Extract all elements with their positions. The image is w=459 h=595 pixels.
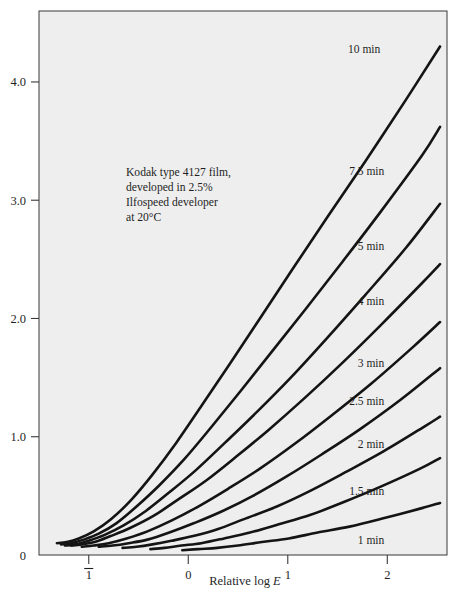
y-axis: 01.02.03.04.0 (10, 75, 39, 562)
curve-label-5-min: 5 min (358, 240, 385, 252)
annotation-line-1: Kodak type 4127 film, (126, 166, 231, 179)
curve-label-4-min: 4 min (358, 295, 385, 307)
curve-label-1-5-min: 1.5 min (349, 485, 384, 497)
x-tick-label: 1 (86, 568, 92, 582)
x-tick-label: 0 (185, 568, 191, 582)
curve-label-1-min: 1 min (358, 534, 385, 546)
x-tick-label: 1 (285, 568, 291, 582)
y-tick-label: 2.0 (10, 312, 26, 326)
plot-background (39, 11, 447, 555)
y-tick-label: 4.0 (10, 75, 26, 89)
x-axis-title-symbol: E (272, 574, 281, 588)
curve-label-7-5-min: 7.5 min (349, 165, 384, 177)
annotation-line-2: developed in 2.5% (126, 181, 213, 194)
curve-label-2-5-min: 2.5 min (349, 395, 384, 407)
y-tick-label: 0 (20, 549, 26, 563)
y-tick-label: 3.0 (10, 194, 26, 208)
x-axis-title: Relative log E (209, 574, 281, 588)
annotation-line-4: at 20°C (126, 211, 161, 224)
curve-label-3-min: 3 min (358, 357, 385, 369)
curve-label-10-min: 10 min (348, 43, 381, 55)
y-tick-label: 1.0 (10, 430, 26, 444)
annotation-line-3: Ilfospeed developer (126, 196, 218, 209)
chart-svg: 01.02.03.04.0 1012 10 min7.5 min5 min4 m… (0, 0, 459, 595)
curve-label-2-min: 2 min (358, 438, 385, 450)
x-axis-title-text: Relative log (209, 574, 273, 588)
x-tick-label: 2 (384, 568, 390, 582)
characteristic-curve-figure: 01.02.03.04.0 1012 10 min7.5 min5 min4 m… (0, 0, 459, 595)
